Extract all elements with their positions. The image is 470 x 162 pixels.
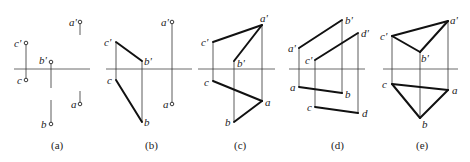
label-d: d — [362, 107, 368, 119]
edge-c-d — [315, 107, 358, 113]
label-a-prime: a' — [69, 16, 78, 28]
edge-c-a — [213, 81, 262, 101]
label-c: c — [107, 74, 112, 86]
label-b: b — [144, 116, 150, 128]
edge-c-prime-d-prime — [315, 33, 358, 60]
edge-a-b — [299, 87, 342, 93]
label-a-prime: a' — [260, 12, 269, 24]
panel-c: c' a' b' c a b (c) — [198, 12, 275, 152]
point-a-prime — [78, 20, 82, 24]
caption-b: (b) — [145, 139, 158, 152]
label-c-prime: c' — [14, 37, 22, 49]
point-c — [24, 78, 28, 82]
edge-c-prime-b-prime — [116, 42, 142, 61]
label-b-prime: b' — [421, 52, 430, 64]
caption-d: (d) — [331, 139, 344, 152]
label-b: b — [225, 116, 231, 128]
point-a — [78, 102, 82, 106]
label-c-prime: c' — [380, 30, 388, 42]
label-b: b — [41, 118, 47, 130]
point-a — [170, 102, 174, 106]
label-b-prime: b' — [345, 14, 354, 26]
label-a: a — [452, 84, 458, 96]
label-b-prime: b' — [144, 55, 153, 67]
label-c: c — [307, 101, 312, 113]
label-a-prime: a' — [288, 42, 297, 54]
label-c-prime: c' — [201, 36, 209, 48]
edge-b-a — [420, 90, 448, 118]
label-a: a — [290, 81, 296, 93]
panel-a: c' c b' b a' a (a) — [14, 16, 90, 152]
edge-b-a — [234, 101, 262, 122]
label-b-prime: b' — [39, 54, 48, 66]
orthographic-projection-figure: c' c b' b a' a (a) c' b' c b a' a (b) c' — [0, 0, 470, 162]
label-b: b — [422, 118, 428, 130]
caption-c: (c) — [234, 139, 247, 152]
label-c: c — [17, 74, 22, 86]
edge-c-b — [116, 80, 142, 122]
edge-c-prime-b-prime — [392, 36, 420, 52]
panel-e: a' c' b' c a b (e) — [380, 14, 459, 152]
label-a: a — [265, 96, 271, 108]
caption-a: (a) — [51, 139, 64, 152]
panel-d: a' b' c' d' a b c d (d) — [288, 14, 370, 152]
label-c-prime: c' — [104, 36, 112, 48]
point-b-prime — [49, 60, 53, 64]
label-c: c — [382, 78, 387, 90]
label-d-prime: d' — [361, 27, 370, 39]
edge-a-prime-b-prime — [299, 20, 342, 48]
label-c: c — [204, 76, 209, 88]
point-b — [49, 122, 53, 126]
label-b: b — [345, 88, 351, 100]
label-a: a — [71, 98, 77, 110]
label-b-prime: b' — [237, 57, 246, 69]
edge-c-b — [392, 84, 420, 118]
point-c-prime — [24, 41, 28, 45]
edge-c-prime-a-prime — [392, 21, 448, 36]
label-a: a — [163, 98, 169, 110]
label-a-prime: a' — [161, 16, 170, 28]
label-a-prime: a' — [450, 14, 459, 26]
caption-e: (e) — [416, 139, 429, 152]
point-a-prime — [170, 20, 174, 24]
label-c-prime: c' — [305, 54, 313, 66]
panel-b: c' b' c b a' a (b) — [104, 16, 192, 152]
